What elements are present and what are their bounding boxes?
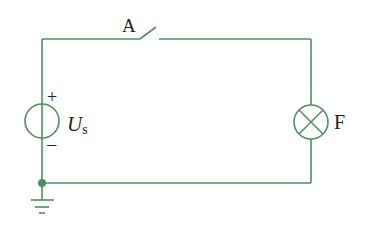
switch-blade: [140, 27, 156, 39]
circuit-diagram: A + − Us F: [0, 0, 375, 242]
source-label: Us: [67, 112, 88, 137]
lamp-label: F: [334, 111, 345, 133]
switch-label: A: [122, 15, 136, 36]
junction-node: [38, 179, 46, 187]
source-label-sub: s: [82, 122, 87, 137]
source-plus-sign: +: [47, 87, 57, 107]
source-minus-sign: −: [46, 134, 57, 156]
